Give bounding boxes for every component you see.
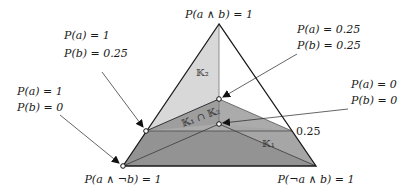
- vertex-bottom-left-label: P(a ∧ ¬b) = 1: [83, 173, 161, 186]
- point-a025-b025: [217, 97, 222, 102]
- callout-a025-b025-line2: P(b) = 0.25: [296, 39, 361, 52]
- region-k2-label: 𝕂₂: [196, 67, 209, 78]
- simplex-diagram: P(a ∧ b) = 1 P(a ∧ ¬b) = 1 P(¬a ∧ b) = 1…: [0, 0, 408, 192]
- callout-a1-b0-line1: P(a) = 1: [16, 85, 63, 98]
- callout-a1-b025-line1: P(a) = 1: [63, 29, 110, 42]
- point-a0-b0: [217, 122, 222, 127]
- tick-025-label: 0.25: [296, 125, 321, 138]
- point-a1-b025: [144, 129, 149, 134]
- region-k1-label: 𝕂₁: [262, 138, 275, 149]
- arrow-a1-b0: [60, 115, 119, 163]
- point-a1-b0: [121, 164, 126, 169]
- vertex-bottom-right-label: P(¬a ∧ b) = 1: [276, 173, 354, 186]
- callout-a025-b025-line1: P(a) = 0.25: [296, 23, 360, 36]
- callout-a0-b0-line2: P(b) = 0: [350, 94, 397, 107]
- arrow-a025-b025: [223, 54, 297, 97]
- callout-a0-b0-line1: P(a) = 0: [350, 78, 397, 91]
- vertex-top-label: P(a ∧ b) = 1: [184, 8, 253, 21]
- callout-a1-b0-line2: P(b) = 0: [16, 101, 63, 114]
- arrow-a1-b025: [102, 72, 143, 127]
- callout-a1-b025-line2: P(b) = 0.25: [63, 47, 128, 60]
